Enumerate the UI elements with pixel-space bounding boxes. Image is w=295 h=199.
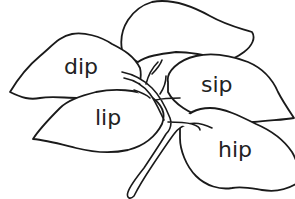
leaf-word-lip: lip [95,107,121,129]
leaf-word-dip: dip [64,56,98,78]
leaf-branch-illustration [0,0,295,199]
leaf-word-hip: hip [218,139,252,161]
leaf-top [121,1,253,62]
leaf-word-sip: sip [201,74,233,96]
